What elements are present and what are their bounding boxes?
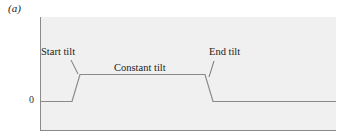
start-tilt-label: Start tilt xyxy=(41,46,75,57)
end-tilt-label: End tilt xyxy=(209,46,240,57)
y-tick-zero: 0 xyxy=(29,94,34,105)
plot-background xyxy=(40,17,336,130)
constant-tilt-label: Constant tilt xyxy=(114,62,166,73)
tilt-diagram xyxy=(0,0,354,136)
